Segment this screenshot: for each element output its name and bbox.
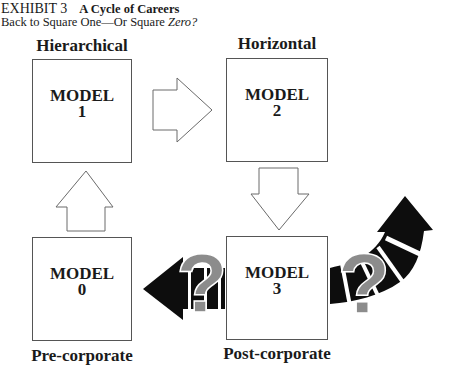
question-mark-icon: ? <box>176 236 227 330</box>
label-pre-corporate: Pre-corporate <box>26 346 138 366</box>
label-horizontal: Horizontal <box>226 34 328 54</box>
model-3-box: MODEL 3 <box>226 236 328 340</box>
arrow-up-icon <box>56 171 113 231</box>
model-0-box: MODEL 0 <box>32 237 132 341</box>
model-2-box: MODEL 2 <box>226 58 328 162</box>
label-post-corporate: Post-corporate <box>218 344 336 364</box>
model-number: 2 <box>273 103 282 119</box>
model-number: 3 <box>273 281 282 297</box>
arrow-down-icon <box>251 168 309 230</box>
arrow-right-icon <box>153 78 212 142</box>
question-mark-icon: ? <box>338 235 391 331</box>
model-number: 0 <box>78 282 87 298</box>
model-1-box: MODEL 1 <box>32 59 132 163</box>
model-number: 1 <box>78 104 87 120</box>
label-hierarchical: Hierarchical <box>32 36 132 56</box>
